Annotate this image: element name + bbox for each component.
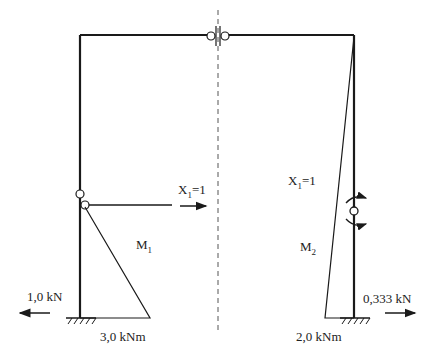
m2-moment-diagram	[325, 37, 354, 318]
m1-moment-diagram	[80, 207, 150, 318]
left-moment-value: 3,0 kNm	[100, 330, 146, 343]
x1-label-right: X1=1	[288, 174, 316, 191]
right-fixed-support-icon	[340, 318, 370, 324]
right-hinge-moment-icon	[346, 197, 366, 225]
x1-label-left: X1=1	[178, 183, 206, 200]
right-reaction-label: 0,333 kN	[363, 292, 411, 305]
right-moment-value: 2,0 kNm	[296, 330, 342, 343]
left-hinges	[76, 190, 172, 209]
m1-label: M1	[136, 238, 152, 255]
frame-diagram	[0, 0, 437, 360]
m2-label: M2	[300, 240, 316, 257]
left-reaction-label: 1,0 kN	[27, 290, 62, 303]
left-fixed-support-icon	[66, 318, 96, 324]
